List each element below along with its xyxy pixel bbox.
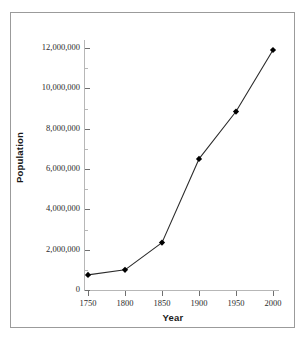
- data-point: [270, 47, 276, 53]
- data-series: [0, 0, 307, 346]
- x-axis-title: Year: [143, 312, 203, 323]
- population-markers: [85, 47, 276, 278]
- population-line: [88, 50, 273, 275]
- figure: 02,000,0004,000,0006,000,0008,000,00010,…: [0, 0, 307, 346]
- plot-area: 02,000,0004,000,0006,000,0008,000,00010,…: [0, 0, 307, 346]
- y-axis-title: Population: [14, 113, 25, 203]
- data-point: [85, 272, 91, 278]
